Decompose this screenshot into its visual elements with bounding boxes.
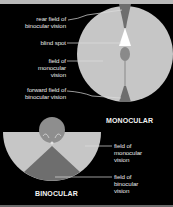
vision-fields-diagram: [0, 0, 173, 207]
monocular-diagram: [67, 4, 173, 102]
label-line: monocular: [114, 149, 142, 156]
label-line: binocular: [114, 180, 138, 187]
label-line: vision: [114, 187, 138, 194]
caption-monocular: MONOCULAR: [106, 117, 153, 124]
label-binocular-field: field of binocular vision: [114, 173, 138, 195]
label-line: vision: [114, 156, 142, 163]
label-line: binocular vision: [0, 93, 66, 100]
label-line: rear field of: [0, 15, 66, 22]
label-blind-spot: blind spot: [0, 39, 66, 46]
label-line: monocular: [0, 64, 66, 71]
label-binocular-monocular-field: field of monocular vision: [114, 142, 142, 164]
label-line: forward field of: [0, 86, 66, 93]
binocular-diagram: [3, 117, 112, 181]
label-line: blind spot: [0, 39, 66, 46]
label-line: vision: [0, 71, 66, 78]
head-shape: [120, 47, 130, 61]
label-line: field of: [114, 142, 142, 149]
label-line: field of: [0, 57, 66, 64]
bottom-divider: [0, 205, 173, 207]
caption-binocular: BINOCULAR: [35, 190, 78, 197]
label-monocular-field: field of monocular vision: [0, 57, 66, 79]
head-circle: [39, 117, 65, 143]
label-rear-binocular: rear field of binocular vision: [0, 15, 66, 29]
label-line: binocular vision: [0, 22, 66, 29]
label-line: field of: [114, 173, 138, 180]
label-forward-binocular: forward field of binocular vision: [0, 86, 66, 100]
